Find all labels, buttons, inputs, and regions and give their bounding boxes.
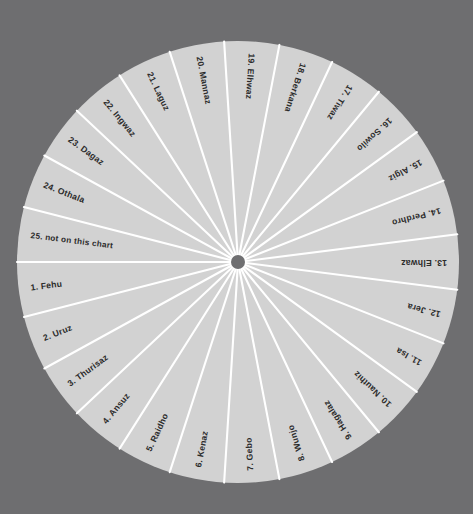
wheel-center-hub[interactable]	[231, 255, 245, 269]
rune-wheel-canvas: 1. Fehu2. Uruz3. Thurisaz4. Ansuz5. Raid…	[0, 0, 473, 514]
rune-wheel-figure: 1. Fehu2. Uruz3. Thurisaz4. Ansuz5. Raid…	[0, 0, 473, 514]
segment-label[interactable]: 13. Elhwaz	[401, 258, 447, 268]
segment-label[interactable]: 7. Gebo	[243, 437, 255, 471]
